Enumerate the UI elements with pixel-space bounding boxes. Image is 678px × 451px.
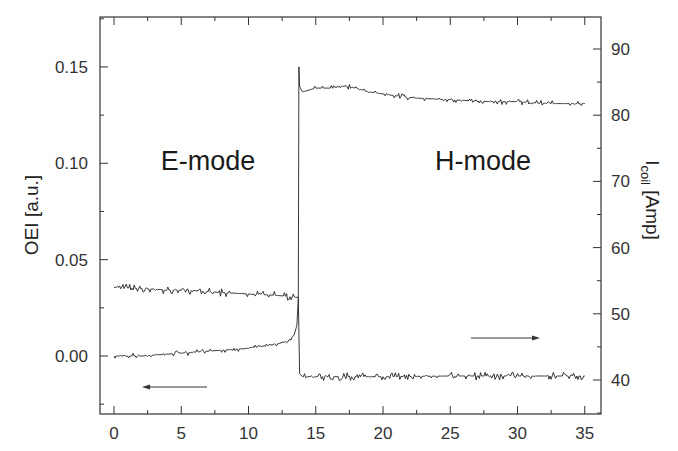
y-tick-label: 0.05 bbox=[55, 251, 88, 270]
x-tick-label: 15 bbox=[306, 424, 325, 443]
x-tick-label: 30 bbox=[508, 424, 527, 443]
y-right-tick-label: 50 bbox=[611, 305, 630, 324]
arrow-left-icon bbox=[142, 385, 207, 390]
x-tick-label: 20 bbox=[374, 424, 393, 443]
y-right-tick-label: 90 bbox=[611, 40, 630, 59]
y-tick-label: 0.15 bbox=[55, 58, 88, 77]
y-right-tick-label: 60 bbox=[611, 239, 630, 258]
y-right-tick-label: 80 bbox=[611, 106, 630, 125]
x-tick-label: 5 bbox=[177, 424, 186, 443]
x-tick-label: 35 bbox=[575, 424, 594, 443]
axis-ticks: 051015202530350.000.050.100.154050607080… bbox=[55, 17, 630, 443]
y-axis-left-title: OEI [a.u.] bbox=[21, 175, 42, 255]
x-tick-label: 25 bbox=[441, 424, 460, 443]
plot-frame bbox=[100, 17, 601, 414]
series-oei bbox=[114, 67, 585, 358]
chart: 051015202530350.000.050.100.154050607080… bbox=[0, 0, 678, 451]
y-right-tick-label: 40 bbox=[611, 371, 630, 390]
series-i-coil bbox=[114, 284, 585, 380]
h-mode-label: H-mode bbox=[435, 146, 531, 176]
x-tick-label: 0 bbox=[109, 424, 118, 443]
y-tick-label: 0.10 bbox=[55, 154, 88, 173]
y-tick-label: 0.00 bbox=[55, 347, 88, 366]
y-right-tick-label: 70 bbox=[611, 172, 630, 191]
e-mode-label: E-mode bbox=[161, 146, 256, 176]
y-axis-right-title: Icoil [Amp] bbox=[638, 160, 663, 240]
data-series bbox=[114, 67, 585, 381]
arrow-right-icon bbox=[471, 336, 540, 341]
x-tick-label: 10 bbox=[239, 424, 258, 443]
